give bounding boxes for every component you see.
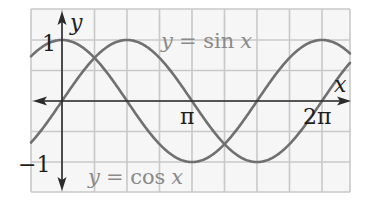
cos-annotation-y: y <box>87 165 101 189</box>
y-tick-label-1: 1 <box>42 31 56 56</box>
sin-annotation-eq: = sin <box>179 29 234 53</box>
sine-cosine-chart: y x 1 −1 π 2π y= sinx y= cosx <box>0 0 374 207</box>
sin-annotation-y: y <box>160 29 174 53</box>
cos-annotation-eq: = cos <box>106 165 165 189</box>
x-tick-label-pi: π <box>180 104 194 129</box>
x-axis-label: x <box>334 72 347 97</box>
x-tick-label-2pi: 2π <box>303 104 331 129</box>
cos-annotation-x: x <box>171 165 183 189</box>
sin-annotation-x: x <box>240 29 252 53</box>
y-tick-label-neg1: −1 <box>18 152 50 177</box>
y-axis-label: y <box>69 10 83 35</box>
